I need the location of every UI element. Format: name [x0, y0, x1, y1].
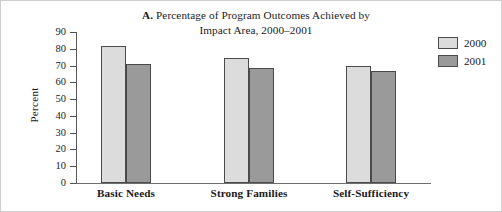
legend-item-2001: 2001 — [438, 52, 486, 70]
chart-title-line-1: Percentage of Program Outcomes Achieved … — [156, 9, 370, 21]
plot-area — [76, 32, 413, 183]
bar-basic-needs-2001 — [126, 64, 151, 183]
x-axis-category-label: Strong Families — [184, 187, 314, 199]
legend-label-2001: 2001 — [464, 55, 486, 67]
x-axis-category-label: Self-Sufficiency — [306, 187, 436, 199]
legend-swatch-2001 — [438, 55, 458, 67]
chart-figure: A. Percentage of Program Outcomes Achiev… — [0, 0, 502, 212]
legend-item-2000: 2000 — [438, 34, 486, 52]
bar-self-sufficiency-2001 — [371, 71, 396, 183]
y-axis-tick-label: 60 — [38, 77, 66, 87]
y-axis-tick-label: 30 — [38, 128, 66, 138]
bar-strong-families-2001 — [249, 68, 274, 183]
bar-strong-families-2000 — [224, 58, 249, 183]
x-axis-line — [76, 183, 431, 184]
y-axis-tick-label: 80 — [38, 44, 66, 54]
x-axis-category-label: Basic Needs — [61, 187, 191, 199]
y-axis-tick-label: 10 — [38, 161, 66, 171]
y-axis-tick-label: 90 — [38, 27, 66, 37]
y-axis-tick-label: 40 — [38, 111, 66, 121]
bar-self-sufficiency-2000 — [346, 66, 371, 183]
y-axis-ticks: 9080706050403020100 — [1, 1, 76, 212]
chart-title-lead: A. — [142, 9, 153, 21]
y-axis-tick-label: 20 — [38, 144, 66, 154]
chart-legend: 20002001 — [438, 34, 486, 70]
y-axis-tick-label: 70 — [38, 61, 66, 71]
bar-basic-needs-2000 — [101, 46, 126, 183]
legend-swatch-2000 — [438, 37, 458, 49]
y-axis-tick-label: 50 — [38, 94, 66, 104]
legend-label-2000: 2000 — [464, 37, 486, 49]
